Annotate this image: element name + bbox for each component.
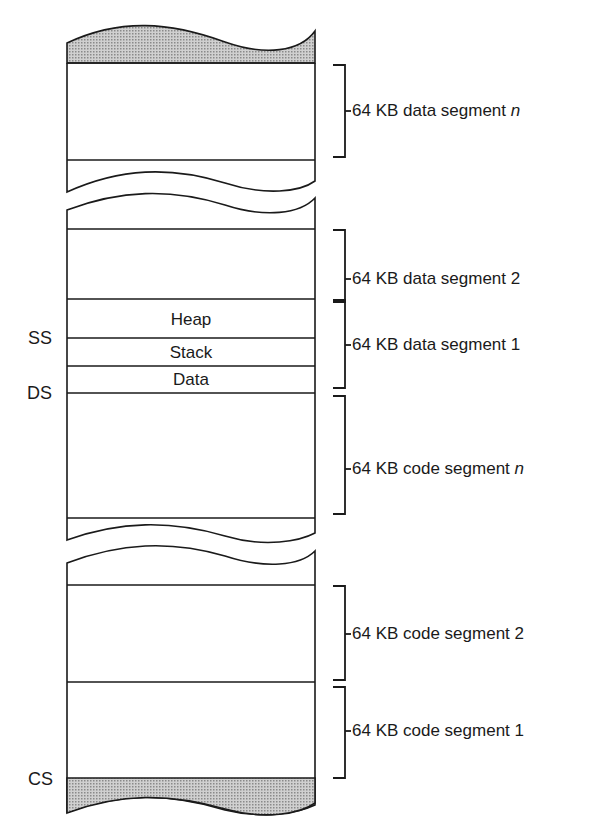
bracket-data-2: [333, 230, 351, 302]
bracket-code-2: [333, 586, 351, 680]
bracket-code-1: [333, 687, 351, 778]
label-suffix: 2: [511, 269, 520, 288]
label-suffix: n: [515, 459, 524, 478]
top-shaded-cap: [67, 26, 315, 63]
label-suffix: n: [511, 101, 520, 120]
column-block-3: [67, 546, 315, 815]
column-block-1: [67, 63, 315, 192]
label-text: 64 KB data segment: [352, 269, 511, 288]
label-suffix: 1: [515, 721, 524, 740]
label-code-segment-1: 64 KB code segment 1: [352, 721, 524, 741]
label-text: 64 KB data segment: [352, 101, 511, 120]
register-ss: SS: [28, 328, 52, 348]
memory-diagram: [0, 0, 615, 837]
label-text: 64 KB code segment: [352, 459, 515, 478]
label-data-segment-1: 64 KB data segment 1: [352, 335, 520, 355]
label-text: 64 KB code segment: [352, 624, 515, 643]
region-stack: Stack: [67, 343, 315, 363]
label-suffix: 2: [515, 624, 524, 643]
register-ds: DS: [27, 383, 52, 403]
register-cs: CS: [28, 769, 53, 789]
label-code-segment-2: 64 KB code segment 2: [352, 624, 524, 644]
bracket-code-n: [333, 396, 351, 514]
bracket-data-1: [333, 300, 351, 388]
bracket-data-n: [333, 65, 351, 157]
label-data-segment-n: 64 KB data segment n: [352, 101, 520, 121]
region-heap: Heap: [67, 310, 315, 330]
label-data-segment-2: 64 KB data segment 2: [352, 269, 520, 289]
bottom-shaded-cap: [67, 778, 315, 815]
label-suffix: 1: [511, 335, 520, 354]
region-data: Data: [67, 370, 315, 390]
label-text: 64 KB data segment: [352, 335, 511, 354]
label-code-segment-n: 64 KB code segment n: [352, 459, 524, 479]
label-text: 64 KB code segment: [352, 721, 515, 740]
column-block-2: [67, 194, 315, 543]
